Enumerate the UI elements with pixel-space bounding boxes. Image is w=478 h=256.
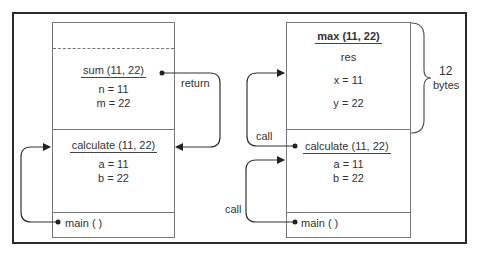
call-arrow-lower — [246, 160, 295, 222]
arrows-overlay — [0, 0, 478, 256]
main-call-dot-right — [293, 220, 298, 225]
call-arrow-upper — [247, 73, 295, 146]
call-arrow-left — [21, 147, 58, 222]
return-arrow — [162, 73, 220, 147]
calculate-call-dot-right — [293, 144, 298, 149]
main-call-dot-left — [56, 220, 61, 225]
return-origin-dot — [160, 71, 165, 76]
size-brace — [411, 23, 431, 133]
